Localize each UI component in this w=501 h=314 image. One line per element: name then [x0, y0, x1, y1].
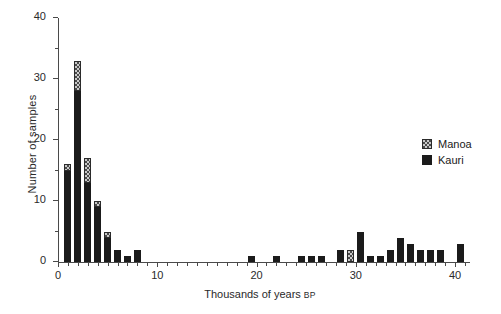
bar-group — [347, 250, 354, 262]
x-axis-line — [58, 262, 470, 263]
bar-segment-manoa — [64, 164, 71, 170]
bar-segment-manoa — [74, 61, 81, 92]
legend-label-manoa: Manoa — [438, 138, 472, 150]
y-tick-40: 40 — [53, 17, 58, 18]
x-tick-label-40: 40 — [449, 269, 461, 281]
y-tick-label-0: 0 — [16, 254, 46, 266]
bar-segment-kauri — [124, 256, 131, 262]
plot-area: 010203040 010203040 — [58, 18, 470, 262]
bar-group — [114, 250, 121, 262]
x-tick-11 — [167, 263, 168, 266]
y-tick-label-20: 20 — [16, 132, 46, 144]
x-tick-20 — [257, 263, 258, 267]
y-tick-label-10: 10 — [16, 193, 46, 205]
x-tick-37 — [425, 263, 426, 266]
x-tick-34 — [396, 263, 397, 266]
bar-segment-manoa — [104, 232, 111, 238]
legend-item-manoa: Manoa — [422, 136, 472, 152]
bar-segment-kauri — [357, 232, 364, 263]
bar-segment-kauri — [248, 256, 255, 262]
bar-group — [407, 244, 414, 262]
bar-segment-kauri — [437, 250, 444, 262]
bar-group — [134, 250, 141, 262]
x-tick-label-0: 0 — [55, 269, 61, 281]
x-tick-29 — [346, 263, 347, 266]
x-tick-36 — [415, 263, 416, 266]
bar-group — [94, 201, 101, 262]
x-tick-12 — [177, 263, 178, 266]
bar-segment-kauri — [298, 256, 305, 262]
x-tick-label-20: 20 — [250, 269, 262, 281]
x-tick-26 — [316, 263, 317, 266]
bar-segment-kauri — [318, 256, 325, 262]
x-tick-35 — [405, 263, 406, 266]
bar-segment-manoa — [94, 201, 101, 207]
bar-group — [84, 158, 91, 262]
bar-segment-kauri — [64, 171, 71, 263]
y-tick-label-40: 40 — [16, 10, 46, 22]
x-tick-0 — [58, 263, 59, 267]
x-tick-13 — [187, 263, 188, 266]
bar-group — [248, 256, 255, 262]
x-tick-23 — [286, 263, 287, 266]
x-tick-17 — [227, 263, 228, 266]
bar-segment-kauri — [114, 250, 121, 262]
bar-group — [298, 256, 305, 262]
y-tick-minor-35 — [55, 48, 58, 49]
chart-legend: ManoaKauri — [422, 136, 472, 168]
x-tick-30 — [356, 263, 357, 267]
x-tick-28 — [336, 263, 337, 266]
bar-segment-kauri — [427, 250, 434, 262]
bar-segment-kauri — [457, 244, 464, 262]
bar-group — [437, 250, 444, 262]
x-tick-21 — [266, 263, 267, 266]
x-tick-label-10: 10 — [151, 269, 163, 281]
bar-group — [357, 232, 364, 263]
legend-swatch-manoa-icon — [422, 139, 432, 149]
x-tick-38 — [435, 263, 436, 266]
bar-group — [337, 250, 344, 262]
x-tick-label-30: 30 — [350, 269, 362, 281]
x-tick-25 — [306, 263, 307, 266]
x-tick-5 — [108, 263, 109, 266]
y-tick-20: 20 — [53, 139, 58, 140]
x-tick-39 — [445, 263, 446, 266]
y-tick-30: 30 — [53, 78, 58, 79]
bar-segment-kauri — [94, 207, 101, 262]
x-tick-3 — [88, 263, 89, 266]
bar-segment-kauri — [74, 91, 81, 262]
x-tick-14 — [197, 263, 198, 266]
bar-group — [457, 244, 464, 262]
x-tick-10 — [157, 263, 158, 267]
bar-group — [387, 250, 394, 262]
bar-group — [417, 250, 424, 262]
bar-segment-kauri — [134, 250, 141, 262]
x-tick-22 — [276, 263, 277, 266]
y-tick-0: 0 — [53, 261, 58, 262]
x-tick-40 — [455, 263, 456, 267]
x-tick-16 — [217, 263, 218, 266]
x-tick-41 — [465, 263, 466, 266]
bar-segment-manoa — [84, 158, 91, 182]
bar-segment-kauri — [84, 183, 91, 262]
legend-item-kauri: Kauri — [422, 152, 472, 168]
x-axis-label-main: Thousands of years — [204, 288, 304, 300]
bar-segment-kauri — [417, 250, 424, 262]
bar-segment-manoa — [347, 250, 354, 262]
x-tick-31 — [366, 263, 367, 266]
bar-group — [377, 256, 384, 262]
x-tick-27 — [326, 263, 327, 266]
x-tick-8 — [137, 263, 138, 266]
x-tick-6 — [118, 263, 119, 266]
x-tick-33 — [386, 263, 387, 266]
x-tick-19 — [247, 263, 248, 266]
x-tick-1 — [68, 263, 69, 266]
bar-segment-kauri — [367, 256, 374, 262]
bar-group — [64, 164, 71, 262]
y-tick-10: 10 — [53, 200, 58, 201]
x-tick-4 — [98, 263, 99, 266]
bar-group — [367, 256, 374, 262]
bar-segment-kauri — [387, 250, 394, 262]
y-tick-minor-5 — [55, 231, 58, 232]
bar-segment-kauri — [377, 256, 384, 262]
